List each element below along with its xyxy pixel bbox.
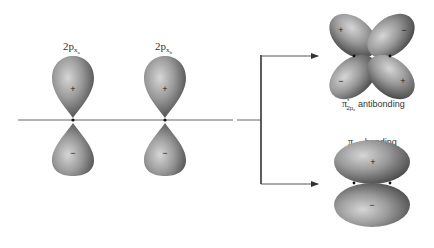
bonding-nucleus-a [353, 182, 356, 185]
bonding-sign-upper: + [370, 157, 375, 167]
antibonding-nucleus-a [353, 55, 356, 58]
combination-bracket [261, 55, 318, 184]
antibonding-sign-br: + [400, 76, 405, 86]
antibonding-label: π*2pxantibonding [342, 98, 405, 112]
bonding-orbital: π2pxbonding + − [334, 136, 410, 227]
atomic-orbital-2pxb: + − 2pxb [144, 40, 186, 176]
antibonding-orbital: + − − + π*2pxantibonding [321, 5, 424, 112]
nucleus-b [163, 118, 166, 121]
nucleus-a [71, 118, 74, 121]
sign-upper-b: + [162, 84, 167, 94]
antibonding-sign-tr: − [401, 25, 406, 35]
antibonding-sign-bl: − [338, 76, 343, 86]
label-2pxb: 2pxb [155, 40, 173, 55]
bonding-nucleus-b [389, 182, 392, 185]
label-2pxa: 2pxa [63, 40, 81, 55]
sign-lower-a: − [70, 148, 75, 158]
antibonding-nucleus-b [389, 55, 392, 58]
antibonding-sign-tl: + [338, 25, 343, 35]
sign-lower-b: − [162, 148, 167, 158]
sign-upper-a: + [70, 84, 75, 94]
atomic-orbital-2pxa: + − 2pxa [52, 40, 94, 176]
bonding-sign-lower: − [369, 200, 374, 210]
mo-diagram: + − 2pxa + − 2pxb + − − + π*2pxantibond [0, 0, 434, 248]
